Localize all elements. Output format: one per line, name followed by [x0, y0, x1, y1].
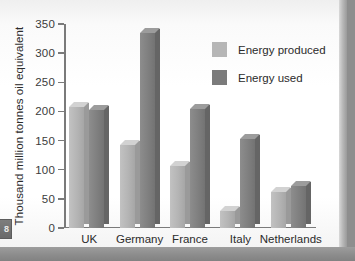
bar-energy-used: [140, 33, 155, 228]
y-axis-tick-label: 350: [35, 18, 55, 30]
x-axis-category-label: Germany: [116, 233, 163, 245]
y-axis-tick-label: 0: [48, 222, 55, 234]
bar-energy-produced: [220, 211, 235, 228]
bar-group: [271, 186, 306, 228]
y-axis-tick: [58, 23, 64, 25]
bar-side-face: [155, 29, 160, 224]
bar-group: [220, 139, 255, 228]
bar-front-face: [170, 166, 185, 228]
legend-item-energy-produced: Energy produced: [212, 42, 326, 57]
bar-energy-used: [89, 110, 104, 228]
chart-legend: Energy produced Energy used: [212, 42, 326, 98]
y-axis-tick: [58, 140, 64, 142]
bar-front-face: [89, 110, 104, 228]
bar-front-face: [69, 107, 84, 228]
bar-side-face: [255, 135, 260, 224]
bar-energy-produced: [120, 145, 135, 228]
bar-front-face: [271, 192, 286, 228]
x-axis-category-label: Italy: [230, 233, 251, 245]
y-axis-tick-label: 300: [35, 47, 55, 59]
page-right-edge: [339, 0, 347, 247]
bar-front-face: [190, 109, 205, 228]
y-axis-tick: [58, 198, 64, 200]
bar-group: [170, 109, 205, 228]
bar-group: [120, 33, 155, 228]
bar-energy-used: [291, 186, 306, 228]
x-axis-category-label: France: [172, 233, 208, 245]
figure-card: Thousand million tonnes oil equivalent 0…: [0, 0, 347, 247]
page-bottom-edge: [0, 247, 355, 261]
y-axis-tick: [58, 111, 64, 113]
y-axis-line: [64, 24, 66, 228]
bar-group: [69, 107, 104, 228]
legend-label-energy-produced: Energy produced: [238, 44, 326, 56]
y-axis-tick: [58, 169, 64, 171]
y-axis-tick-label: 50: [42, 193, 55, 205]
bar-front-face: [140, 33, 155, 228]
bar-energy-produced: [271, 192, 286, 228]
bar-front-face: [220, 211, 235, 228]
bar-front-face: [240, 139, 255, 228]
legend-label-energy-used: Energy used: [238, 72, 303, 84]
x-axis-category-label: UK: [81, 233, 97, 245]
y-axis-tick-label: 250: [35, 76, 55, 88]
y-axis-tick-label: 100: [35, 164, 55, 176]
bar-energy-produced: [69, 107, 84, 228]
bar-side-face: [104, 106, 109, 224]
page-number-tab: 8: [0, 219, 12, 239]
y-axis-title: Thousand million tonnes oil equivalent: [10, 24, 28, 228]
y-axis-tick-label: 200: [35, 105, 55, 117]
legend-swatch-icon-energy-used: [212, 70, 227, 85]
bar-front-face: [120, 145, 135, 228]
bar-front-face: [291, 186, 306, 228]
y-axis-title-text: Thousand million tonnes oil equivalent: [13, 27, 25, 226]
bar-side-face: [306, 182, 311, 224]
legend-swatch-icon-energy-produced: [212, 42, 227, 57]
bar-side-face: [205, 105, 210, 224]
x-axis-category-label: Netherlands: [260, 233, 322, 245]
y-axis-tick: [58, 52, 64, 54]
y-axis-tick-label: 150: [35, 135, 55, 147]
y-axis-tick: [58, 227, 64, 229]
bar-energy-produced: [170, 166, 185, 228]
bar-energy-used: [190, 109, 205, 228]
legend-item-energy-used: Energy used: [212, 70, 326, 85]
y-axis-tick: [58, 82, 64, 84]
bar-energy-used: [240, 139, 255, 228]
